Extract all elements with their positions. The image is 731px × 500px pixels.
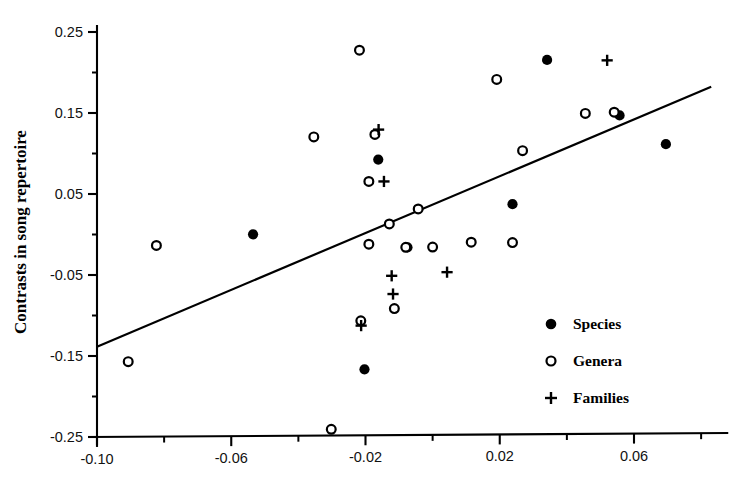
data-point-open-circle bbox=[492, 75, 501, 84]
y-axis-tick-label: -0.05 bbox=[50, 267, 83, 283]
data-point-filled-circle bbox=[542, 55, 552, 65]
data-point-open-circle bbox=[364, 240, 373, 249]
data-point-open-circle bbox=[401, 243, 410, 252]
trend-line bbox=[97, 87, 711, 347]
legend-marker-filled-circle bbox=[546, 319, 557, 330]
x-axis-tick-label: -0.06 bbox=[215, 450, 248, 466]
data-point-filled-circle bbox=[373, 154, 383, 164]
legend-label: Families bbox=[573, 389, 629, 406]
y-axis-tick-label: 0.25 bbox=[55, 24, 83, 40]
y-axis-tick-label: 0.05 bbox=[55, 186, 83, 202]
regression-line bbox=[97, 87, 711, 347]
data-point-filled-circle bbox=[661, 139, 671, 149]
y-axis-title: Contrasts in song repertoire bbox=[11, 130, 30, 334]
data-point-filled-circle bbox=[359, 364, 369, 374]
legend-item-families: Families bbox=[545, 389, 629, 406]
series-genera bbox=[124, 46, 619, 434]
legend-item-genera: Genera bbox=[547, 352, 623, 369]
data-point-open-circle bbox=[467, 238, 476, 247]
x-axis-tick-label: 0.06 bbox=[620, 448, 648, 464]
axis-ticks bbox=[88, 32, 701, 447]
x-axis-line bbox=[89, 433, 728, 437]
legend-label: Species bbox=[573, 315, 621, 332]
data-point-open-circle bbox=[390, 304, 399, 313]
data-point-open-circle bbox=[364, 177, 373, 186]
data-point-open-circle bbox=[124, 357, 133, 366]
axes bbox=[89, 25, 728, 445]
data-point-open-circle bbox=[309, 132, 318, 141]
data-point-open-circle bbox=[355, 46, 364, 55]
series-families bbox=[356, 55, 613, 331]
legend-marker-open-circle bbox=[547, 357, 556, 366]
x-axis-tick-labels: -0.10-0.06-0.020.020.06 bbox=[80, 448, 648, 467]
data-point-open-circle bbox=[610, 108, 619, 117]
y-axis-tick-label: 0.15 bbox=[55, 105, 83, 121]
data-point-open-circle bbox=[518, 146, 527, 155]
y-axis-tick-labels: 0.250.150.05-0.05-0.15-0.25 bbox=[50, 24, 83, 445]
chart-legend: SpeciesGeneraFamilies bbox=[545, 315, 629, 406]
data-point-open-circle bbox=[414, 205, 423, 214]
data-point-filled-circle bbox=[507, 199, 517, 209]
data-points bbox=[124, 46, 671, 434]
y-axis-tick-label: -0.15 bbox=[50, 348, 83, 364]
x-axis-tick-label: -0.10 bbox=[80, 451, 113, 467]
data-point-open-circle bbox=[428, 243, 437, 252]
legend-label: Genera bbox=[573, 352, 622, 369]
scatter-plot-figure: Contrasts in song repertoire -0.10-0.06-… bbox=[0, 0, 731, 500]
data-point-filled-circle bbox=[248, 229, 258, 239]
y-axis-title-label: Contrasts in song repertoire bbox=[11, 130, 30, 334]
data-point-open-circle bbox=[581, 109, 590, 118]
data-point-open-circle bbox=[385, 220, 394, 229]
data-point-open-circle bbox=[327, 425, 336, 434]
plot-canvas: Contrasts in song repertoire -0.10-0.06-… bbox=[0, 0, 731, 500]
data-point-open-circle bbox=[152, 241, 161, 250]
data-point-open-circle bbox=[508, 238, 517, 247]
y-axis-tick-label: -0.25 bbox=[50, 429, 83, 445]
x-axis-tick-label: -0.02 bbox=[349, 449, 382, 465]
x-axis-tick-label: 0.02 bbox=[486, 448, 514, 464]
legend-item-species: Species bbox=[546, 315, 622, 332]
